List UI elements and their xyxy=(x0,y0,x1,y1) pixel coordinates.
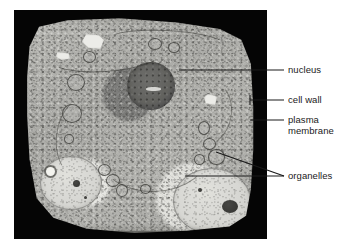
label-nucleus: nucleus xyxy=(288,64,321,75)
label-organelles: organelles xyxy=(288,170,332,181)
label-plasma-membrane: plasma membrane xyxy=(288,114,334,136)
labeled-micrograph-figure: nucleus cell wall plasma membrane organe… xyxy=(0,0,356,249)
cell-wall-rim xyxy=(20,16,258,233)
micrograph-plate xyxy=(14,10,267,239)
label-plasma-membrane-line2: membrane xyxy=(288,125,334,136)
label-plasma-membrane-line1: plasma xyxy=(288,114,334,125)
cell-body xyxy=(20,16,258,233)
label-cell-wall: cell wall xyxy=(288,94,322,105)
